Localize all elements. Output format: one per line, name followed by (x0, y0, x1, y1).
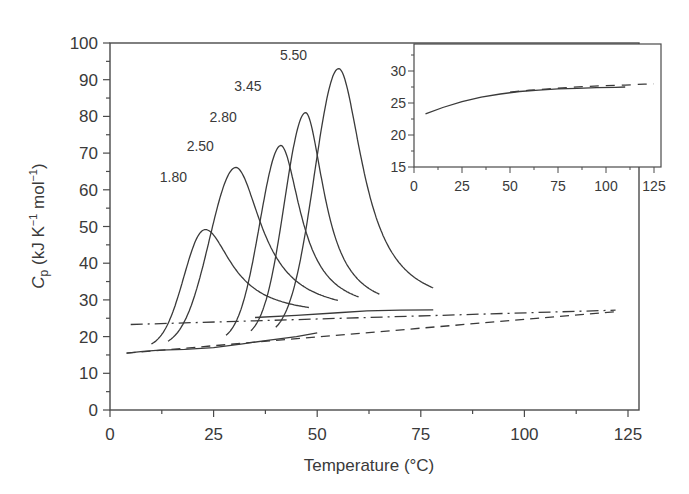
inset-x-tick-label: 25 (454, 178, 470, 194)
y-tick-label: 60 (79, 181, 98, 200)
inset-y-tick-label: 15 (390, 159, 406, 175)
denatured-baseline-line (131, 310, 616, 324)
y-tick-label: 50 (79, 218, 98, 237)
main-x-axis: 0255075100125 (105, 410, 642, 444)
x-tick-label: 100 (510, 425, 538, 444)
inset-y-tick-label: 20 (390, 127, 406, 143)
x-tick-label: 125 (614, 425, 642, 444)
inset-y-axis: 15202530 (390, 55, 414, 175)
thermogram-curves (127, 69, 434, 354)
inset-x-tick-label: 75 (550, 178, 566, 194)
y-tick-label: 100 (70, 34, 98, 53)
y-tick-label: 30 (79, 291, 98, 310)
inset-plot: 15202530 0255075100125 (390, 44, 665, 194)
y-tick-label: 70 (79, 144, 98, 163)
x-tick-label: 50 (308, 425, 327, 444)
series-label-5.50: 5.50 (280, 47, 307, 63)
inset-x-tick-label: 100 (594, 178, 618, 194)
inset-x-axis: 0255075100125 (410, 167, 666, 194)
main-y-axis: 0102030405060708090100 (70, 34, 110, 420)
thermogram-curve-1.80 (151, 230, 309, 344)
y-tick-label: 80 (79, 107, 98, 126)
x-tick-label: 25 (204, 425, 223, 444)
inset-y-tick-label: 25 (390, 95, 406, 111)
inset-x-tick-label: 50 (502, 178, 518, 194)
x-axis-title: Temperature (°C) (304, 456, 435, 475)
thermogram-curve-5.50 (276, 69, 433, 328)
series-label-1.80: 1.80 (160, 169, 187, 185)
series-labels: 1.802.502.803.455.50 (160, 47, 308, 186)
y-axis-title: Cp (kJ K−1 mol−1) (27, 163, 51, 288)
dsc-chart: 0102030405060708090100 0255075100125 1.8… (0, 0, 689, 494)
series-label-2.80: 2.80 (209, 109, 236, 125)
inset-x-tick-label: 125 (642, 178, 666, 194)
inset-y-tick-label: 30 (390, 63, 406, 79)
thermogram-curve-2.50 (168, 168, 338, 342)
native-trace (127, 333, 318, 353)
y-tick-label: 20 (79, 328, 98, 347)
y-tick-label: 10 (79, 364, 98, 383)
y-tick-label: 0 (89, 401, 98, 420)
series-label-3.45: 3.45 (234, 78, 261, 94)
x-tick-label: 75 (411, 425, 430, 444)
y-tick-label: 90 (79, 71, 98, 90)
inset-x-tick-label: 0 (410, 178, 418, 194)
series-label-2.50: 2.50 (187, 138, 214, 154)
x-tick-label: 0 (105, 425, 114, 444)
thermogram-curve-2.80 (226, 146, 359, 336)
y-tick-label: 40 (79, 254, 98, 273)
baseline-lines (127, 310, 616, 353)
